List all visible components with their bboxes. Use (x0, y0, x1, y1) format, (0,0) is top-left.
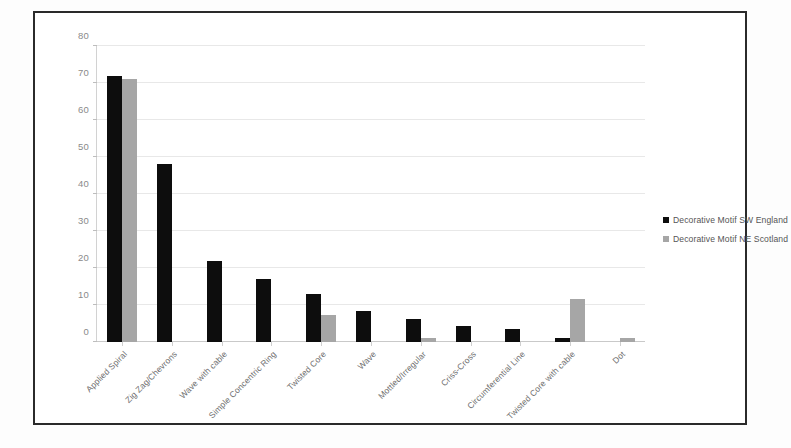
x-tick-mark (172, 342, 173, 346)
y-tick-label: 80 (78, 30, 89, 41)
bar-group: Circumferential Line (496, 46, 546, 342)
legend-label: Decorative Motif SW England (673, 215, 788, 225)
y-tick-label: 40 (78, 178, 89, 189)
bar-group: Twisted Core with cable (545, 46, 595, 342)
bar (620, 338, 635, 342)
bar-group: Mottled/Irregular (396, 46, 446, 342)
bar (122, 79, 137, 342)
y-tick-label: 0 (84, 326, 89, 337)
x-tick-mark (471, 342, 472, 346)
legend-label: Decorative Motif NE Scotland (673, 234, 788, 244)
legend-item: Decorative Motif SW England (663, 215, 788, 225)
bar-group: Dot (595, 46, 645, 342)
y-tick-label: 10 (78, 289, 89, 300)
bar (505, 329, 520, 342)
y-tick-label: 70 (78, 67, 89, 78)
x-tick-mark (421, 342, 422, 346)
bar (555, 338, 570, 342)
bar (107, 76, 122, 342)
x-tick-mark (371, 342, 372, 346)
bar-group: Criss-Cross (446, 46, 496, 342)
bar (456, 326, 471, 342)
bar (406, 319, 421, 342)
x-tick-label: Dot (610, 349, 627, 366)
x-tick-mark (520, 342, 521, 346)
bar (570, 299, 585, 342)
bar-groups: Applied SpiralZig Zag/ChevronsWave with … (97, 46, 645, 342)
x-tick-mark (570, 342, 571, 346)
bar-group: Zig Zag/Chevrons (147, 46, 197, 342)
bar (256, 279, 271, 342)
bar (356, 311, 371, 342)
y-tick-label: 20 (78, 252, 89, 263)
x-tick-label: Criss-Cross (438, 349, 477, 388)
x-tick-label: Zig Zag/Chevrons (123, 349, 179, 405)
plot-wrapper: 01020304050607080 Applied SpiralZig Zag/… (97, 46, 645, 342)
chart-frame: 01020304050607080 Applied SpiralZig Zag/… (33, 11, 747, 425)
x-tick-mark (620, 342, 621, 346)
x-tick-mark (122, 342, 123, 346)
bar (306, 294, 321, 342)
y-tick-label: 50 (78, 141, 89, 152)
bar (207, 261, 222, 342)
legend-swatch-icon (663, 217, 669, 223)
bar-group: Wave (346, 46, 396, 342)
bar (321, 315, 336, 342)
legend-swatch-icon (663, 236, 669, 242)
plot-area: 01020304050607080 Applied SpiralZig Zag/… (97, 46, 645, 342)
x-tick-label: Twisted Core (285, 349, 328, 392)
bar-group: Simple Concentric Ring (246, 46, 296, 342)
x-tick-label: Wave (356, 349, 378, 371)
x-tick-label: Mottled/Irregular (376, 349, 428, 401)
x-tick-label: Applied Spiral (84, 349, 129, 394)
x-tick-mark (321, 342, 322, 346)
bar-group: Twisted Core (296, 46, 346, 342)
bar (421, 338, 436, 342)
bar-group: Applied Spiral (97, 46, 147, 342)
legend-item: Decorative Motif NE Scotland (663, 234, 788, 244)
x-tick-mark (222, 342, 223, 346)
y-tick-label: 30 (78, 215, 89, 226)
chart-page: 01020304050607080 Applied SpiralZig Zag/… (0, 0, 791, 448)
y-tick-label: 60 (78, 104, 89, 115)
x-tick-mark (271, 342, 272, 346)
bar (157, 164, 172, 342)
bar-group: Wave with cable (197, 46, 247, 342)
x-tick-label: Wave with cable (177, 349, 229, 401)
chart-legend: Decorative Motif SW EnglandDecorative Mo… (663, 215, 788, 253)
